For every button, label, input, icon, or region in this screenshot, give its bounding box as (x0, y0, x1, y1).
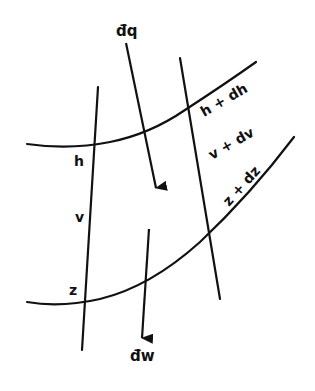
control-volume-diagram: đq đw h v z h + dh v + dv z + dz (0, 0, 315, 391)
label-v: v (75, 209, 84, 225)
curve-z (27, 137, 294, 304)
boundary-left-line (82, 87, 98, 350)
label-dq: đq (116, 22, 137, 40)
label-h-plus-dh: h + dh (198, 80, 251, 120)
label-h: h (74, 153, 84, 169)
label-z: z (69, 282, 77, 298)
label-dw: đw (130, 347, 155, 365)
heat-arrow (126, 43, 156, 188)
label-z-plus-dz: z + dz (219, 163, 263, 209)
label-v-plus-dv: v + dv (206, 124, 257, 163)
boundary-right-line (180, 58, 220, 299)
